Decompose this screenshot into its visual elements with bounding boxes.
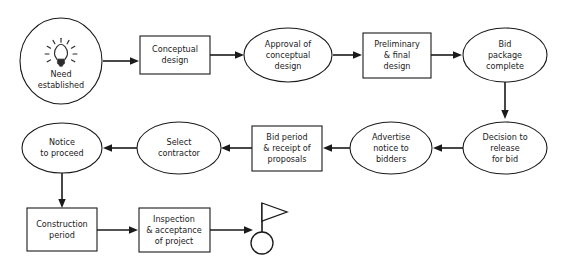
- node-label: Inspection: [153, 214, 195, 224]
- node-label: Conceptual: [152, 44, 198, 54]
- node-conceptual-design[interactable]: Conceptual design: [140, 36, 210, 74]
- node-label: package: [488, 50, 522, 60]
- node-label: proposals: [268, 154, 307, 164]
- node-label: Notice: [49, 137, 75, 147]
- connector-conceptual-to-approval: [210, 51, 244, 59]
- node-label: Need: [50, 69, 71, 79]
- flowchart-canvas: Need established Conceptual design Appro…: [0, 0, 561, 266]
- node-label: design: [275, 61, 302, 71]
- flowchart-diagram: Need established Conceptual design Appro…: [0, 0, 561, 266]
- node-label: Preliminary: [374, 39, 420, 49]
- node-label: Bid: [499, 39, 512, 49]
- node-label: & acceptance: [146, 225, 202, 235]
- node-approval-conceptual-design[interactable]: Approval of conceptual design: [244, 28, 332, 82]
- node-label: Bid period: [266, 132, 307, 142]
- node-label: & final: [384, 50, 410, 60]
- connector-construction-to-inspection: [97, 226, 138, 234]
- node-label: to proceed: [40, 148, 83, 158]
- node-label: & receipt of: [263, 143, 311, 153]
- connector-approval-to-preliminary: [333, 51, 362, 59]
- node-bid-package-complete[interactable]: Bid package complete: [463, 28, 547, 82]
- node-need-established[interactable]: Need established: [20, 18, 102, 104]
- node-label: design: [384, 61, 411, 71]
- node-advertise-notice-to-bidders[interactable]: Advertise notice to bidders: [350, 122, 432, 174]
- node-bid-period-receipt-proposals[interactable]: Bid period & receipt of proposals: [252, 126, 322, 171]
- node-decision-release-for-bid[interactable]: Decision to release for bid: [463, 122, 547, 174]
- node-label: of project: [155, 236, 193, 246]
- node-label: complete: [486, 61, 524, 71]
- flag-icon: [251, 203, 287, 254]
- node-label: period: [49, 230, 75, 240]
- node-label: notice to: [373, 143, 409, 153]
- node-label: Select: [167, 137, 192, 147]
- node-construction-period[interactable]: Construction period: [27, 208, 97, 251]
- connector-advertise-to-bidperiod: [323, 144, 350, 152]
- node-label: for bid: [492, 154, 518, 164]
- node-select-contractor[interactable]: Select contractor: [137, 122, 221, 174]
- node-notice-to-proceed[interactable]: Notice to proceed: [22, 123, 102, 173]
- node-inspection-acceptance[interactable]: Inspection & acceptance of project: [139, 208, 210, 252]
- connector-select-to-notice: [103, 144, 137, 152]
- node-label: bidders: [376, 154, 406, 164]
- node-label: Advertise: [372, 132, 410, 142]
- connector-need-to-conceptual: [103, 57, 139, 65]
- node-label: design: [162, 55, 189, 65]
- connector-decision-to-advertise: [433, 144, 463, 152]
- connector-inspection-to-finish: [210, 226, 253, 234]
- node-label: Approval of: [265, 39, 311, 49]
- connector-bidpackage-to-decision: [501, 82, 508, 119]
- node-finish-flag[interactable]: [251, 203, 287, 254]
- connector-preliminary-to-bidpackage: [431, 51, 462, 59]
- node-label: contractor: [158, 148, 201, 158]
- connector-bidperiod-to-select: [221, 144, 252, 152]
- node-label: established: [38, 80, 84, 90]
- node-label: Construction: [36, 219, 88, 229]
- node-label: Decision to: [482, 132, 527, 142]
- node-label: conceptual: [266, 50, 311, 60]
- connector-notice-to-construction: [58, 173, 65, 208]
- node-label: release: [490, 143, 520, 153]
- node-preliminary-final-design[interactable]: Preliminary & final design: [363, 33, 431, 78]
